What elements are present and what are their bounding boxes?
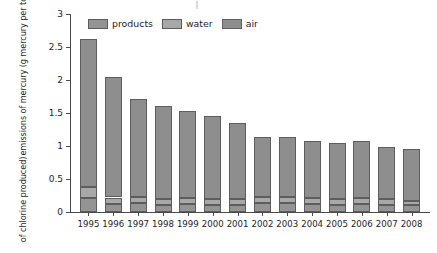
x-tick-label: 2007: [376, 219, 398, 229]
bar-1999[interactable]: [179, 111, 196, 212]
bar-segment-air: [254, 137, 271, 197]
bar-2007[interactable]: [378, 147, 395, 212]
bar-segment-products: [179, 204, 196, 212]
bar-segment-water: [353, 198, 370, 204]
bar-segment-products: [279, 203, 296, 212]
x-tick: [387, 212, 388, 216]
bar-segment-water: [105, 198, 122, 205]
y-tick-label: 2.5: [49, 43, 63, 52]
bar-2004[interactable]: [304, 141, 321, 212]
bar-2006[interactable]: [353, 141, 370, 212]
bar-segment-water: [130, 197, 147, 203]
y-tick-label: 3: [57, 10, 63, 19]
bar-segment-products: [229, 205, 246, 212]
bar-segment-air: [329, 143, 346, 200]
bar-segment-products: [329, 205, 346, 212]
bar-segment-water: [80, 187, 97, 198]
bar-segment-air: [80, 39, 97, 187]
bar-2003[interactable]: [279, 137, 296, 212]
y-tick-label: 2: [57, 76, 63, 85]
bar-segment-water: [254, 197, 271, 203]
bar-segment-products: [403, 205, 420, 212]
x-tick-label: 2008: [401, 219, 423, 229]
bar-1997[interactable]: [130, 98, 147, 212]
bar-segment-water: [155, 199, 172, 205]
bar-2005[interactable]: [329, 143, 346, 212]
bar-segment-air: [279, 137, 296, 198]
bar-segment-water: [229, 199, 246, 204]
x-tick: [362, 212, 363, 216]
bar-segment-products: [80, 198, 97, 212]
bar-segment-products: [155, 205, 172, 212]
x-tick: [163, 212, 164, 216]
x-tick-label: 1996: [102, 219, 124, 229]
x-tick-label: 1997: [127, 219, 149, 229]
bar-segment-products: [304, 204, 321, 212]
x-tick-label: 2005: [326, 219, 348, 229]
bar-segment-products: [130, 203, 147, 212]
bar-segment-products: [105, 204, 122, 212]
bar-segment-products: [254, 203, 271, 212]
bar-2002[interactable]: [254, 137, 271, 212]
bar-2000[interactable]: [204, 116, 221, 212]
y-tick-label: 0.5: [49, 175, 63, 184]
x-tick: [188, 212, 189, 216]
bar-segment-air: [155, 106, 172, 198]
bar-segment-water: [378, 199, 395, 204]
bar-segment-water: [403, 201, 420, 206]
x-tick: [412, 212, 413, 216]
bar-segment-air: [130, 99, 147, 197]
y-axis-title-line-2: of chlorine produced): [18, 157, 28, 243]
x-tick-label: 2002: [251, 219, 273, 229]
x-tick: [213, 212, 214, 216]
y-tick-label: 1: [57, 142, 63, 151]
x-tick-label: 2001: [227, 219, 249, 229]
x-tick-label: 1999: [177, 219, 199, 229]
x-tick: [88, 212, 89, 216]
x-tick: [287, 212, 288, 216]
bar-segment-water: [304, 198, 321, 204]
bar-segment-air: [378, 147, 395, 199]
bar-2008[interactable]: [403, 149, 420, 212]
x-tick-label: 2003: [276, 219, 298, 229]
bar-segment-air: [179, 111, 196, 198]
bar-segment-products: [204, 205, 221, 212]
bar-segment-air: [403, 149, 420, 201]
x-tick-label: 2000: [202, 219, 224, 229]
x-tick: [337, 212, 338, 216]
x-tick: [138, 212, 139, 216]
bar-1998[interactable]: [155, 106, 172, 212]
bar-segment-air: [304, 141, 321, 198]
mercury-emissions-chart: emissions of mercury (g mercury per tonn…: [0, 0, 437, 253]
y-tick-label: 0: [57, 208, 63, 217]
x-axis-line: [70, 212, 430, 213]
bar-segment-air: [204, 116, 221, 199]
scan-artifact: [196, 1, 198, 9]
x-tick: [113, 212, 114, 216]
y-axis-title: emissions of mercury (g mercury per tonn…: [2, 0, 42, 230]
y-tick: [66, 212, 71, 213]
bars-layer: [70, 14, 430, 212]
x-tick: [312, 212, 313, 216]
bar-segment-water: [279, 197, 296, 203]
bar-segment-products: [378, 205, 395, 212]
bar-segment-products: [353, 204, 370, 212]
bar-2001[interactable]: [229, 123, 246, 212]
bar-segment-air: [105, 77, 122, 198]
bar-segment-water: [329, 199, 346, 204]
bar-segment-air: [229, 123, 246, 200]
x-tick-label: 2006: [351, 219, 373, 229]
y-axis-title-line-1: emissions of mercury (g mercury per tonn…: [18, 0, 28, 156]
x-tick-label: 1998: [152, 219, 174, 229]
plot-area: 00.511.522.53 19951996199719981999200020…: [70, 14, 430, 212]
bar-segment-water: [179, 198, 196, 204]
bar-segment-air: [353, 141, 370, 198]
x-tick: [262, 212, 263, 216]
y-tick-label: 1.5: [49, 109, 63, 118]
bar-1996[interactable]: [105, 77, 122, 212]
x-tick-label: 2004: [301, 219, 323, 229]
x-tick-label: 1995: [77, 219, 99, 229]
x-tick: [238, 212, 239, 216]
bar-segment-water: [204, 199, 221, 205]
bar-1995[interactable]: [80, 39, 97, 212]
